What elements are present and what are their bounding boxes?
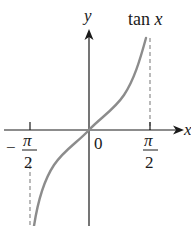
tick-label-pos-denominator: 2 — [145, 153, 154, 172]
tick-label-neg-numerator: π — [23, 131, 32, 150]
tick-label-neg-denominator: 2 — [24, 153, 33, 172]
y-axis-label: y — [82, 6, 92, 25]
tick-label-pos-numerator: π — [144, 131, 153, 150]
tan-plot: y tan x x − π 2 0 π 2 — [0, 0, 191, 226]
x-axis-label: x — [183, 120, 191, 139]
tick-label-zero: 0 — [94, 134, 103, 153]
tan-curve — [34, 38, 146, 226]
tick-label-neg-sign: − — [6, 138, 16, 157]
function-label: tan x — [128, 9, 163, 29]
